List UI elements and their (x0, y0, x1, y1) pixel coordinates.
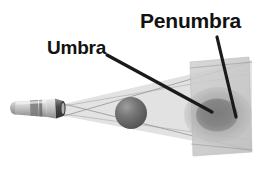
label-penumbra: Penumbra (140, 10, 241, 31)
label-umbra: Umbra (47, 38, 106, 57)
blocking-sphere (115, 97, 147, 129)
umbra-penumbra-diagram: Umbra Penumbra (0, 0, 271, 174)
flashlight (10, 99, 66, 119)
